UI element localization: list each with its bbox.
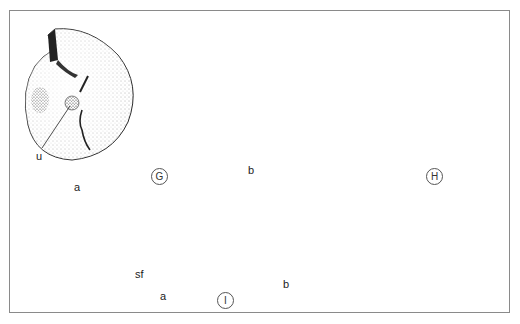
panel-marker-g: G (151, 168, 168, 185)
label-u-umbilicus: u (36, 150, 42, 162)
label-i-a: a (160, 290, 166, 302)
label-g-b: b (248, 164, 254, 176)
label-g-a: a (74, 181, 80, 193)
illustration-canvas (0, 0, 520, 324)
label-i-b: b (283, 278, 289, 290)
label-sf-siphuncle: sf (135, 268, 144, 280)
ammonite-shell-g-a (25, 29, 133, 160)
panel-marker-h: H (426, 168, 443, 185)
panel-marker-i: I (217, 292, 234, 309)
